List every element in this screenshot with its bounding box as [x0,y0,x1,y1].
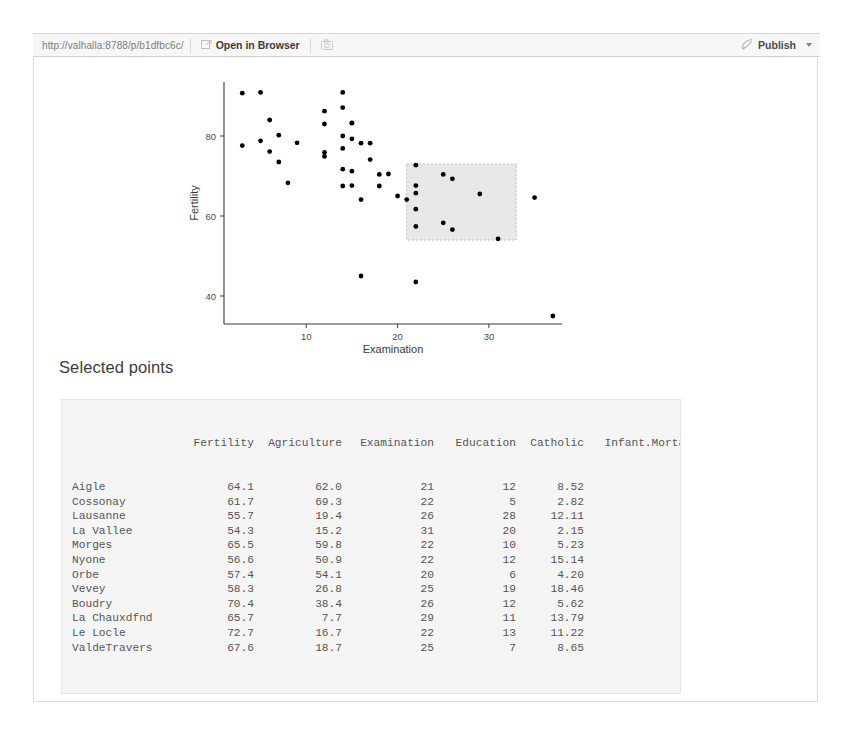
x-tick-label: 10 [301,331,312,342]
data-point [441,220,446,225]
column-header-examination: Examination [342,436,434,451]
data-point [441,172,446,177]
data-point [322,109,327,114]
cell-catholic: 18.46 [516,582,584,597]
data-point [286,180,291,185]
open-in-browser-label: Open in Browser [216,39,300,51]
data-point [359,274,364,279]
open-in-browser-button[interactable]: Open in Browser [197,36,304,54]
table-header-row: FertilityAgricultureExaminationEducation… [72,436,670,451]
cell-fertility: 57.4 [180,568,254,583]
cell-agriculture: 54.1 [254,568,342,583]
cell-infant-mortality: 20.2 [584,509,681,524]
column-header-fertility: Fertility [180,436,254,451]
plot-canvas[interactable]: 102030 406080 Examination Fertility [184,80,564,360]
cell-rowname: La Chauxdfnd [72,611,180,626]
brush-selection-rect[interactable] [407,164,517,240]
cell-rowname: Nyone [72,553,180,568]
cell-examination: 31 [342,524,434,539]
cell-agriculture: 62.0 [254,480,342,495]
data-point [359,141,364,146]
cell-rowname: Aigle [72,480,180,495]
x-tick-label: 20 [392,331,403,342]
x-tick-label: 30 [484,331,495,342]
cell-catholic: 2.82 [516,495,584,510]
data-point [404,197,409,202]
cell-examination: 26 [342,597,434,612]
data-point [386,172,391,177]
cell-agriculture: 16.7 [254,626,342,641]
cell-examination: 26 [342,509,434,524]
publish-icon [741,36,754,54]
data-point [267,149,272,154]
data-point [532,195,537,200]
table-row: Vevey58.326.8251918.4620.9 [72,582,670,597]
cell-examination: 25 [342,641,434,656]
cell-infant-mortality: 19.5 [584,641,681,656]
cell-fertility: 61.7 [180,495,254,510]
scatter-plot[interactable]: 102030 406080 Examination Fertility [184,80,564,360]
cell-examination: 25 [342,582,434,597]
cell-rowname: Morges [72,538,180,553]
data-point [295,140,300,145]
table-row: ValdeTravers67.618.72578.6519.5 [72,641,670,656]
x-axis-label: Examination [363,343,424,355]
data-point [258,138,263,143]
app-url-label[interactable]: http://valhalla:8788/p/b1dfbc6c/ [33,40,184,51]
cell-education: 11 [434,611,516,626]
snapshot-button[interactable] [317,36,337,54]
cell-fertility: 65.7 [180,611,254,626]
cell-education: 12 [434,597,516,612]
cell-catholic: 4.20 [516,568,584,583]
table-row: Orbe57.454.12064.2015.3 [72,568,670,583]
cell-catholic: 13.79 [516,611,584,626]
table-row: Aigle64.162.021128.5216.5 [72,480,670,495]
cell-education: 12 [434,553,516,568]
cell-catholic: 15.14 [516,553,584,568]
cell-agriculture: 69.3 [254,495,342,510]
cell-infant-mortality: 16.7 [584,553,681,568]
cell-agriculture: 38.4 [254,597,342,612]
data-point [322,154,327,159]
column-header-infant-mortality: Infant.Mortality [584,436,681,451]
table-row: Le Locle72.716.7221311.2218.9 [72,626,670,641]
publish-button[interactable]: Publish [737,36,800,54]
cell-infant-mortality: 10.8 [584,524,681,539]
y-tick-label: 40 [205,291,216,302]
cell-catholic: 5.23 [516,538,584,553]
y-tick-label: 60 [205,211,216,222]
data-point [322,122,327,127]
data-point [450,176,455,181]
cell-rowname: Vevey [72,582,180,597]
data-point [240,143,245,148]
data-point [377,184,382,189]
cell-rowname: Lausanne [72,509,180,524]
viewer-toolbar: http://valhalla:8788/p/b1dfbc6c/ Open in… [33,33,820,57]
table-row: La Vallee54.315.231202.1510.8 [72,524,670,539]
cell-education: 10 [434,538,516,553]
table-row: Nyone56.650.9221215.1416.7 [72,553,670,568]
data-point [377,172,382,177]
cell-catholic: 12.11 [516,509,584,524]
cell-infant-mortality: 16.5 [584,480,681,495]
data-point [276,133,281,138]
data-point [349,183,354,188]
cell-rowname: Cossonay [72,495,180,510]
cell-examination: 22 [342,626,434,641]
data-point [349,136,354,141]
external-window-icon [201,36,212,54]
data-point [496,236,501,241]
cell-catholic: 5.62 [516,597,584,612]
table-row: Boudry70.438.426125.6220.3 [72,597,670,612]
data-point [395,194,400,199]
cell-catholic: 2.15 [516,524,584,539]
data-point [477,192,482,197]
viewer-panel: http://valhalla:8788/p/b1dfbc6c/ Open in… [33,33,820,703]
cell-education: 28 [434,509,516,524]
data-point [413,191,418,196]
cell-agriculture: 18.7 [254,641,342,656]
chevron-down-icon[interactable] [806,43,812,47]
cell-agriculture: 50.9 [254,553,342,568]
cell-fertility: 55.7 [180,509,254,524]
toolbar-divider [190,37,191,53]
